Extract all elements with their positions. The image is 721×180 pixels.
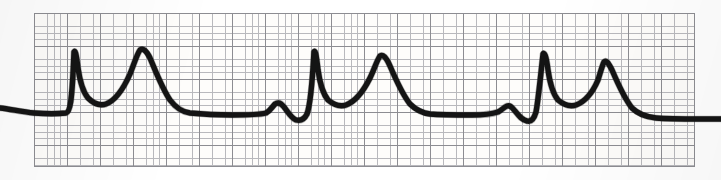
ecg-strip-figure: Electrocardiogram rhythm strip showing t… (0, 0, 721, 180)
ecg-graph-paper-grid (34, 13, 695, 167)
